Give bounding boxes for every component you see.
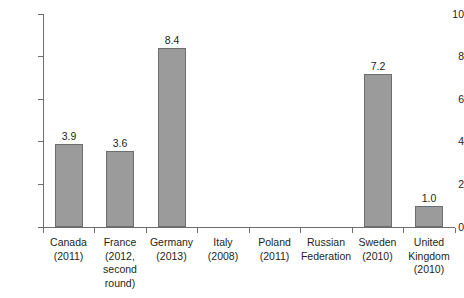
bar-canada[interactable] (55, 144, 83, 227)
x-label-sweden-line-0: Sweden (352, 236, 403, 250)
y-tick-label-2: 2 (434, 179, 464, 189)
x-tick-boundary-0 (43, 228, 44, 233)
x-label-sweden-line-1: (2010) (352, 250, 403, 264)
y-tick-label-6: 6 (434, 94, 464, 104)
bar-value-germany: 8.4 (151, 35, 193, 46)
x-tick-boundary-7 (403, 228, 404, 233)
bar-france[interactable] (106, 151, 134, 227)
bar-value-united-kingdom: 1.0 (408, 193, 450, 204)
bar-value-canada: 3.9 (48, 131, 90, 142)
x-label-france-line-1: (2012, (94, 250, 146, 264)
x-label-france-line-0: France (94, 236, 146, 250)
bar-value-sweden: 7.2 (357, 61, 399, 72)
x-label-germany: Germany (2013) (146, 236, 197, 263)
x-label-russian-federation-line-0: Russian (298, 236, 354, 250)
bar-chart: 0 2 4 6 8 10 3.9 3.6 8.4 (0, 0, 464, 298)
x-label-united-kingdom-line-1: Kingdom (401, 250, 457, 264)
x-label-united-kingdom-line-2: (2010) (401, 263, 457, 277)
x-label-russian-federation: Russian Federation (298, 236, 354, 263)
y-tick-10 (38, 14, 43, 15)
x-label-italy: Italy (2008) (197, 236, 249, 263)
x-tick-boundary-4 (249, 228, 250, 233)
x-tick-boundary-5 (300, 228, 301, 233)
y-tick-4 (38, 141, 43, 142)
x-label-united-kingdom-line-0: United (401, 236, 457, 250)
x-tick-boundary-8 (455, 228, 456, 233)
y-tick-label-8: 8 (434, 51, 464, 61)
x-label-germany-line-0: Germany (146, 236, 197, 250)
x-label-france-line-3: round) (94, 277, 146, 291)
x-label-germany-line-1: (2013) (146, 250, 197, 264)
x-tick-boundary-2 (146, 228, 147, 233)
x-label-poland: Poland (2011) (249, 236, 300, 263)
y-axis-line (43, 14, 44, 228)
x-label-canada-line-0: Canada (43, 236, 94, 250)
y-tick-6 (38, 99, 43, 100)
x-label-canada: Canada (2011) (43, 236, 94, 263)
x-label-poland-line-0: Poland (249, 236, 300, 250)
x-label-united-kingdom: United Kingdom (2010) (401, 236, 457, 277)
chart-page: 0 2 4 6 8 10 3.9 3.6 8.4 (0, 0, 464, 298)
x-label-france-line-2: second (94, 263, 146, 277)
x-tick-boundary-1 (94, 228, 95, 233)
bar-sweden[interactable] (364, 74, 392, 227)
x-label-sweden: Sweden (2010) (352, 236, 403, 263)
x-label-italy-line-1: (2008) (197, 250, 249, 264)
y-tick-label-10: 10 (434, 9, 464, 19)
x-label-italy-line-0: Italy (197, 236, 249, 250)
x-tick-boundary-6 (352, 228, 353, 233)
x-tick-boundary-3 (197, 228, 198, 233)
bar-united-kingdom[interactable] (415, 206, 443, 227)
y-tick-8 (38, 56, 43, 57)
x-label-poland-line-1: (2011) (249, 250, 300, 264)
y-tick-label-4: 4 (434, 136, 464, 146)
x-label-russian-federation-line-1: Federation (298, 250, 354, 264)
bar-germany[interactable] (158, 48, 186, 227)
y-tick-2 (38, 184, 43, 185)
x-label-canada-line-1: (2011) (43, 250, 94, 264)
x-label-france: France (2012, second round) (94, 236, 146, 290)
bar-value-france: 3.6 (99, 138, 141, 149)
